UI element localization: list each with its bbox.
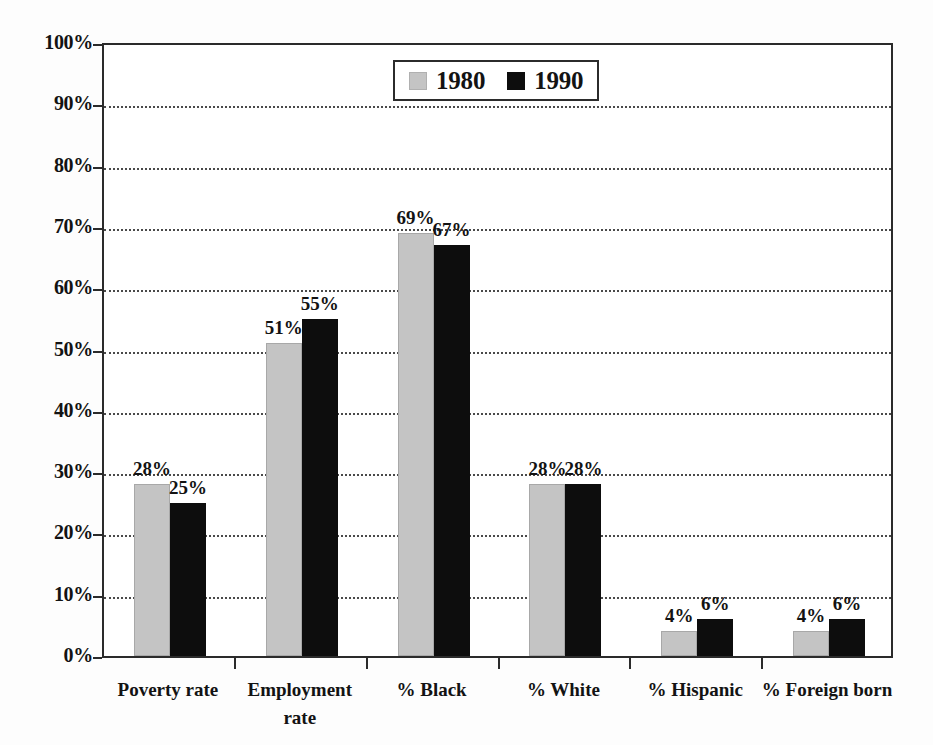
bar-series-1990 [829,619,865,656]
x-axis-tick [629,658,631,669]
gridline [104,290,891,292]
x-axis-label-line: rate [215,704,385,732]
y-axis-label: 30% [7,460,93,483]
bar-series-1980 [793,631,829,656]
y-axis-tick [93,167,102,169]
light-gray-swatch [409,72,427,90]
gridline [104,168,891,170]
y-axis-tick [93,657,102,659]
y-axis-label: 60% [7,276,93,299]
bar-series-1980 [134,484,170,656]
x-axis-label-line: % Foreign born [742,676,912,704]
bar-value-label: 67% [417,219,487,241]
y-axis-label: 20% [7,521,93,544]
bar-value-label: 25% [153,477,223,499]
bar-value-label: 55% [285,293,355,315]
y-axis-label: 50% [7,338,93,361]
y-axis-label: 10% [7,583,93,606]
y-axis-tick [93,228,102,230]
y-axis-tick [93,289,102,291]
bar-chart: 0%10%20%30%40%50%60%70%80%90%100% 28%25%… [0,0,933,745]
y-axis-tick [93,412,102,414]
black-swatch [507,72,525,90]
y-axis-tick [93,105,102,107]
gridline [104,229,891,231]
legend-entry: 1980 [409,67,485,95]
x-axis-tick [498,658,500,669]
y-axis-tick [93,534,102,536]
bar-value-label: 28% [548,458,618,480]
y-axis-tick [93,596,102,598]
y-axis-label: 80% [7,154,93,177]
gridline [104,535,891,537]
y-axis-tick [93,473,102,475]
bar-value-label: 6% [680,593,750,615]
chart-legend: 19801990 [393,60,599,101]
legend-label: 1990 [534,67,583,95]
legend-label: 1980 [436,67,485,95]
bar-series-1990 [565,484,601,656]
bar-value-label: 6% [812,593,882,615]
y-axis-tick [93,351,102,353]
gridline [104,106,891,108]
y-axis-label: 90% [7,92,93,115]
y-axis: 0%10%20%30%40%50%60%70%80%90%100% [0,0,93,745]
bar-series-1980 [266,343,302,656]
x-axis-tick [761,658,763,669]
y-axis-label: 70% [7,215,93,238]
y-axis-label: 0% [7,644,93,667]
bar-series-1980 [529,484,565,656]
bar-series-1980 [398,233,434,656]
y-axis-tick [93,44,102,46]
x-axis-tick [366,658,368,669]
legend-entry: 1990 [507,67,583,95]
gridline [104,413,891,415]
x-axis-label: % Foreign born [742,676,912,704]
gridline [104,597,891,599]
gridline [104,352,891,354]
plot-area: 28%25%51%55%69%67%28%28%4%6%4%6% [102,43,893,658]
bar-series-1990 [434,245,470,656]
bar-series-1980 [661,631,697,656]
bar-series-1990 [697,619,733,656]
x-axis-tick [234,658,236,669]
y-axis-label: 100% [7,31,93,54]
bar-series-1990 [302,319,338,656]
bar-series-1990 [170,503,206,656]
y-axis-label: 40% [7,399,93,422]
